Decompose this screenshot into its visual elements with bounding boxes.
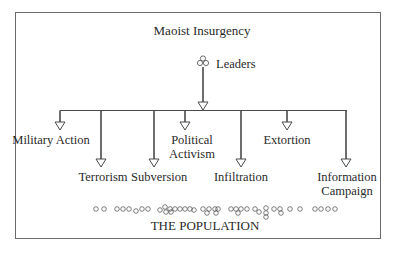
- branch-label-military-action: Military Action: [6, 133, 96, 147]
- population-circle-icon: [94, 207, 99, 212]
- branch-arrowhead-subversion: [149, 159, 159, 167]
- population-circle-icon: [173, 207, 178, 212]
- branch-label-political-line-2: Activism: [164, 147, 220, 161]
- branch-arrowhead-extortion: [282, 122, 292, 130]
- population-circle-icon: [288, 207, 293, 212]
- population-circle-icon: [298, 207, 303, 212]
- population-circle-icon: [146, 207, 151, 212]
- leaders-arrowhead: [198, 102, 208, 110]
- population-circle-icon: [257, 210, 262, 215]
- diagram-title: Maoist Insurgency: [150, 24, 254, 38]
- population-circle-icon: [121, 207, 126, 212]
- population-circle-icon: [264, 206, 269, 211]
- population-circle-icon: [164, 210, 169, 215]
- population-circle-icon: [178, 207, 183, 212]
- population-circle-icon: [183, 207, 188, 212]
- population-circle-icon: [239, 207, 244, 212]
- leader-circle: [200, 56, 205, 61]
- population-circle-icon: [253, 207, 258, 212]
- population-circle-icon: [168, 207, 173, 212]
- branch-label-infiltration: Infiltration: [212, 170, 270, 184]
- population-circle-icon: [333, 207, 338, 212]
- population-circle-icon: [313, 207, 318, 212]
- branch-label-terrorism: Terrorism: [76, 170, 130, 184]
- population-circle-icon: [127, 207, 132, 212]
- leaders-group-icon: [197, 56, 208, 66]
- branch-arrowhead-terrorism: [96, 159, 106, 167]
- population-circle-icon: [229, 207, 234, 212]
- branch-label-information-line-2: Campaign: [316, 184, 378, 198]
- branch-arrowhead-political-activism: [180, 122, 190, 130]
- population-circle-icon: [169, 210, 174, 215]
- population-circle-icon: [140, 207, 145, 212]
- population-label: THE POPULATION: [150, 219, 260, 233]
- population-circle-icon: [245, 207, 250, 212]
- population-circle-icon: [236, 211, 241, 216]
- population-circle-icon: [319, 207, 324, 212]
- population-circle-icon: [163, 205, 168, 210]
- population-circle-icon: [205, 211, 210, 216]
- branch-label-political-line-1: Political: [164, 133, 220, 147]
- branch-label-information-line-1: Information: [316, 170, 378, 184]
- population-circle-icon: [102, 207, 107, 212]
- branch-label-subversion: Subversion: [131, 170, 183, 184]
- population-circle-icon: [134, 209, 139, 214]
- population-circle-icon: [158, 208, 163, 213]
- diagram-canvas: [0, 0, 399, 255]
- branch-arrowhead-military-action: [55, 122, 65, 130]
- population-circle-icon: [326, 207, 331, 212]
- population-circle-icon: [115, 207, 120, 212]
- branch-arrowhead-infiltration: [236, 159, 246, 167]
- population-circle-icon: [272, 207, 277, 212]
- leaders-label: Leaders: [216, 57, 256, 71]
- branch-label-political-activism: Political Activism: [164, 133, 220, 161]
- branch-arrowhead-information-campaign: [341, 159, 351, 167]
- branch-label-information-campaign: Information Campaign: [316, 170, 378, 198]
- population-circle-icon: [201, 207, 206, 212]
- branch-label-extortion: Extortion: [262, 133, 312, 147]
